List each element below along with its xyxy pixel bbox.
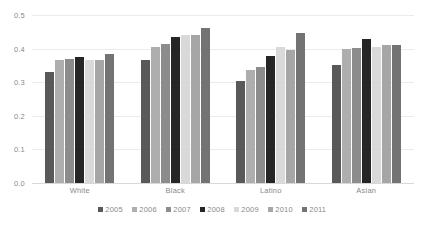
bar-asian-2006 bbox=[342, 49, 351, 183]
legend-item-2009[interactable]: 2009 bbox=[234, 205, 259, 214]
bar-latino-2011 bbox=[296, 33, 305, 183]
bar-group-white bbox=[40, 15, 120, 183]
legend-swatch-icon bbox=[302, 207, 307, 212]
legend-swatch-icon bbox=[200, 207, 205, 212]
bar-group-latino bbox=[231, 15, 311, 183]
legend-swatch-icon bbox=[98, 207, 103, 212]
bar-group-asian bbox=[326, 15, 406, 183]
bar-latino-2008 bbox=[266, 56, 275, 183]
bar-asian-2005 bbox=[332, 65, 341, 183]
bar-groups bbox=[32, 15, 414, 183]
bar-white-2005 bbox=[45, 72, 54, 183]
bar-asian-2007 bbox=[352, 48, 361, 183]
category-axis-labels: WhiteBlackLatinoAsian bbox=[32, 186, 414, 200]
legend-item-2011[interactable]: 2011 bbox=[302, 205, 326, 214]
bar-black-2010 bbox=[191, 35, 200, 183]
legend-item-2007[interactable]: 2007 bbox=[166, 205, 191, 214]
bar-latino-2005 bbox=[236, 81, 245, 183]
bar-white-2008 bbox=[75, 57, 84, 183]
legend-swatch-icon bbox=[234, 207, 239, 212]
axis-baseline bbox=[32, 183, 414, 184]
bar-white-2010 bbox=[95, 60, 104, 183]
bar-asian-2009 bbox=[372, 47, 381, 183]
bar-latino-2006 bbox=[246, 70, 255, 183]
bar-latino-2010 bbox=[286, 50, 295, 183]
y-axis-tick-label: 0.1 bbox=[14, 145, 25, 154]
legend-label: 2011 bbox=[309, 205, 326, 214]
legend-item-2005[interactable]: 2005 bbox=[98, 205, 123, 214]
y-axis: 0.00.10.20.30.40.5 bbox=[0, 15, 30, 183]
plot-area bbox=[32, 15, 414, 183]
bar-asian-2010 bbox=[382, 45, 391, 183]
legend-label: 2007 bbox=[173, 205, 191, 214]
bar-black-2009 bbox=[181, 35, 190, 183]
legend-item-2010[interactable]: 2010 bbox=[268, 205, 293, 214]
category-label-black: Black bbox=[135, 186, 215, 200]
legend-swatch-icon bbox=[268, 207, 273, 212]
category-label-asian: Asian bbox=[326, 186, 406, 200]
bar-black-2006 bbox=[151, 47, 160, 183]
y-axis-tick-label: 0.4 bbox=[14, 44, 25, 53]
bar-chart: 0.00.10.20.30.40.5 WhiteBlackLatinoAsian… bbox=[0, 0, 424, 225]
legend-item-2006[interactable]: 2006 bbox=[132, 205, 157, 214]
bar-white-2011 bbox=[105, 54, 114, 183]
bar-black-2011 bbox=[201, 28, 210, 183]
y-axis-tick-label: 0.3 bbox=[14, 78, 25, 87]
legend-label: 2005 bbox=[105, 205, 123, 214]
legend-label: 2008 bbox=[207, 205, 225, 214]
bar-black-2007 bbox=[161, 44, 170, 183]
bar-white-2006 bbox=[55, 60, 64, 183]
y-axis-tick-label: 0.2 bbox=[14, 111, 25, 120]
bar-white-2009 bbox=[85, 60, 94, 183]
y-axis-tick-label: 0.0 bbox=[14, 179, 25, 188]
legend-label: 2010 bbox=[275, 205, 293, 214]
category-label-white: White bbox=[40, 186, 120, 200]
bar-asian-2011 bbox=[392, 45, 401, 183]
bar-latino-2009 bbox=[276, 47, 285, 183]
bar-black-2005 bbox=[141, 60, 150, 183]
bar-group-black bbox=[135, 15, 215, 183]
legend-swatch-icon bbox=[132, 207, 137, 212]
y-axis-tick-label: 0.5 bbox=[14, 11, 25, 20]
bar-black-2008 bbox=[171, 37, 180, 183]
category-label-latino: Latino bbox=[231, 186, 311, 200]
bar-white-2007 bbox=[65, 59, 74, 183]
legend-label: 2006 bbox=[139, 205, 157, 214]
bar-asian-2008 bbox=[362, 39, 371, 183]
legend-item-2008[interactable]: 2008 bbox=[200, 205, 225, 214]
legend-label: 2009 bbox=[241, 205, 259, 214]
legend: 2005200620072008200920102011 bbox=[0, 205, 424, 214]
bar-latino-2007 bbox=[256, 67, 265, 183]
legend-swatch-icon bbox=[166, 207, 171, 212]
